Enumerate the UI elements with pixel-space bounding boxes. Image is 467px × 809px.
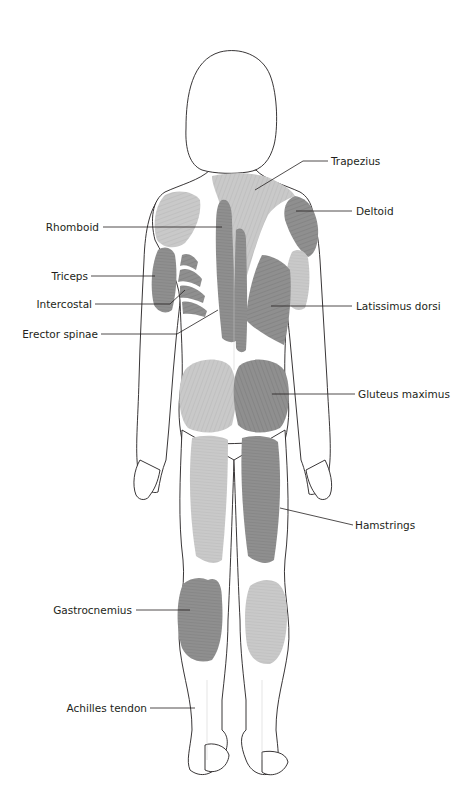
label-erector-spinae: Erector spinae: [22, 328, 98, 340]
label-triceps: Triceps: [51, 270, 88, 282]
left-gluteus-muscle: [179, 360, 236, 433]
erector-spinae-muscle: [235, 228, 247, 352]
gastrocnemius-muscle: [178, 578, 223, 662]
right-gastrocnemius-muscle: [245, 580, 287, 664]
label-achilles-tendon: Achilles tendon: [67, 702, 147, 714]
left-hamstrings-muscle: [190, 436, 228, 563]
right-foot-outline: [262, 751, 288, 774]
hamstrings-muscle: [241, 436, 280, 563]
label-rhomboid: Rhomboid: [46, 221, 99, 233]
triceps-muscle: [152, 248, 177, 313]
label-deltoid: Deltoid: [356, 205, 394, 217]
head-outline: [186, 51, 277, 174]
label-intercostal: Intercostal: [36, 298, 92, 310]
label-gastrocnemius: Gastrocnemius: [53, 604, 132, 616]
label-hamstrings: Hamstrings: [355, 519, 415, 531]
leader-hamstrings: [280, 508, 353, 525]
label-latissimus-dorsi: Latissimus dorsi: [356, 300, 441, 312]
gluteus-maximus-muscle: [234, 360, 289, 433]
anatomy-diagram: Rhomboid Triceps Intercostal Erector spi…: [0, 0, 467, 809]
label-gluteus-maximus: Gluteus maximus: [358, 388, 450, 400]
label-trapezius: Trapezius: [330, 155, 380, 167]
